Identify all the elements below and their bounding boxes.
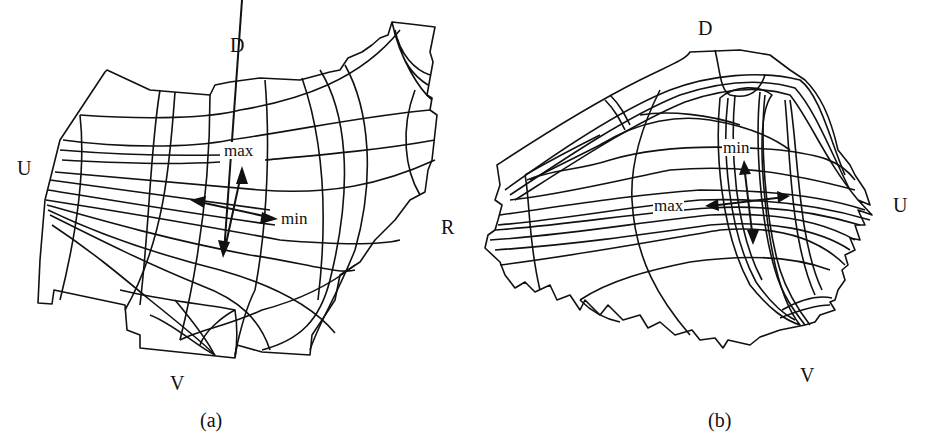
orientation-label-top-a: D (230, 35, 244, 55)
orientation-label-left-a: U (17, 158, 31, 178)
panel-a: max min D U R V (a) (0, 0, 460, 446)
arrows-a (0, 0, 460, 446)
orientation-label-bottom-a: V (170, 373, 184, 393)
caption-a: (a) (200, 410, 222, 430)
max-label-a: max (223, 142, 254, 159)
orientation-label-top-b: D (698, 18, 712, 38)
panel-b: min max D U V (b) (460, 0, 925, 446)
arrow-left-icon (190, 196, 206, 208)
min-label-b: min (722, 139, 750, 156)
orientation-label-right-b: U (893, 195, 907, 215)
min-label-a: min (280, 210, 308, 227)
arrow-down-icon (218, 240, 230, 258)
orientation-label-right-a: R (441, 217, 454, 237)
arrow-right-icon (260, 212, 278, 224)
arrow-up-icon (739, 160, 751, 175)
caption-b: (b) (708, 410, 731, 430)
arrows-b (460, 0, 925, 446)
arrow-right-icon (777, 191, 790, 203)
arrow-down-icon (747, 230, 759, 245)
arrow-up-icon (236, 166, 248, 184)
max-label-b: max (653, 197, 684, 214)
arrow-left-icon (705, 199, 719, 211)
orientation-label-bottom-b: V (800, 365, 814, 385)
